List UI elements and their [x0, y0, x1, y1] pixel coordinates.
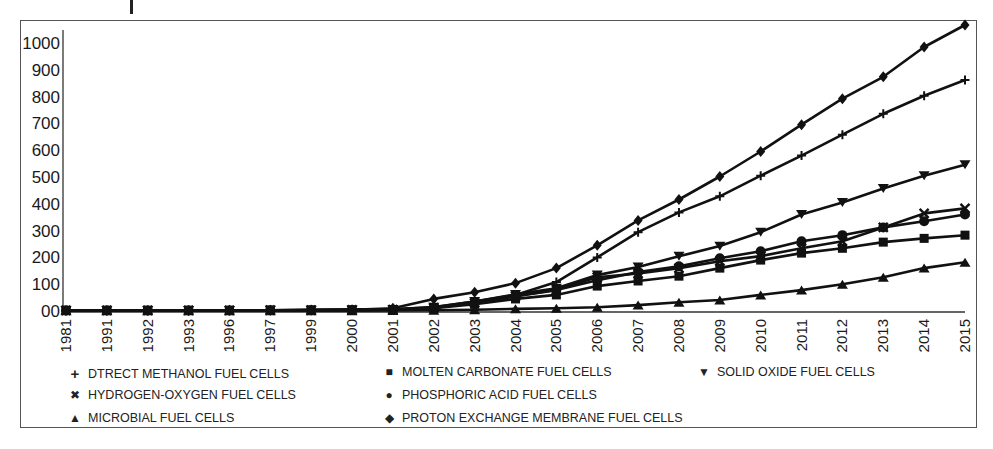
- line-chart: 001002003004005006007008009001000 198119…: [0, 0, 993, 449]
- x-tick-label: 2005: [547, 319, 564, 352]
- x-tick-label: 2001: [384, 319, 401, 352]
- x-tick-label: 1996: [220, 319, 237, 352]
- y-tick-label: 00: [41, 302, 60, 321]
- data-series: [61, 20, 971, 316]
- x-tick-label: 2011: [793, 319, 810, 351]
- x-axis-ticks: 1981199119921993199619971999200020012002…: [57, 319, 973, 352]
- y-axis-ticks: 001002003004005006007008009001000: [22, 34, 60, 321]
- series-diamond: [62, 20, 970, 316]
- x-tick-label: 2006: [588, 319, 605, 352]
- x-tick-label: 1993: [180, 319, 197, 352]
- x-tick-label: 2004: [507, 319, 524, 352]
- x-tick-label: 1991: [98, 319, 115, 352]
- y-tick-label: 600: [32, 141, 60, 160]
- x-tick-label: 2014: [915, 319, 932, 352]
- x-tick-label: 1992: [139, 319, 156, 352]
- series-circle: [61, 210, 970, 316]
- x-tick-label: 2010: [752, 319, 769, 352]
- x-tick-label: 2000: [343, 319, 360, 352]
- y-tick-label: 200: [32, 248, 60, 267]
- x-tick-label: 2008: [670, 319, 687, 352]
- x-tick-label: 2009: [711, 319, 728, 352]
- x-tick-label: 1997: [261, 319, 278, 352]
- x-tick-label: 1981: [57, 319, 74, 352]
- x-tick-label: 2007: [629, 319, 646, 352]
- x-tick-label: 1999: [302, 319, 319, 352]
- x-tick-label: 2002: [425, 319, 442, 352]
- y-tick-label: 100: [32, 275, 60, 294]
- y-tick-label: 400: [32, 195, 60, 214]
- y-tick-label: 700: [32, 114, 60, 133]
- y-tick-label: 300: [32, 222, 60, 241]
- y-tick-label: 1000: [22, 34, 60, 53]
- x-tick-label: 2013: [874, 319, 891, 352]
- y-tick-label: 800: [32, 88, 60, 107]
- x-tick-label: 2015: [956, 319, 973, 352]
- y-tick-label: 500: [32, 168, 60, 187]
- chart-axes: [63, 30, 965, 312]
- x-tick-label: 2003: [466, 319, 483, 352]
- x-tick-label: 2012: [833, 319, 850, 352]
- y-tick-label: 900: [32, 61, 60, 80]
